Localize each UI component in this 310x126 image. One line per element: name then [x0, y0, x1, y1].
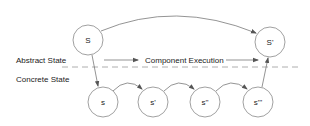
- abstraction-arrow-down: [92, 55, 98, 86]
- concrete-transition-1: [113, 83, 142, 91]
- abstract-state-label: Abstract State: [16, 56, 67, 65]
- state-diagram: Abstract State Concrete State Component …: [0, 0, 310, 126]
- concrete-node-s3-label: s''': [254, 98, 263, 107]
- abstraction-arrow-up: [262, 58, 268, 87]
- concrete-transition-3: [216, 83, 247, 91]
- abstract-node-S-prime-label: S': [267, 38, 274, 47]
- abstract-node-S-label: S: [85, 36, 90, 45]
- concrete-state-label: Concrete State: [16, 75, 70, 84]
- concrete-transition-2: [164, 83, 194, 91]
- concrete-node-s2-label: s'': [201, 98, 209, 107]
- abstract-transition-arrow: [101, 16, 256, 33]
- component-execution-label: Component Execution: [145, 56, 224, 65]
- concrete-node-s1-label: s': [150, 98, 156, 107]
- concrete-node-s-label: s: [101, 98, 105, 107]
